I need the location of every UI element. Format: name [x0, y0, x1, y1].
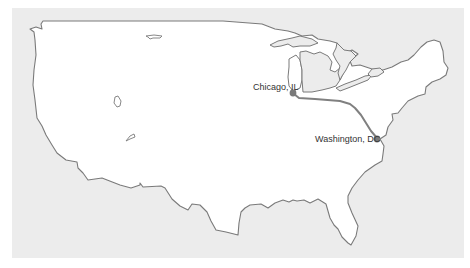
city-label-chicago: Chicago, IL	[253, 82, 299, 92]
us-map: Chicago, IL Washington, DC	[0, 0, 470, 268]
city-label-washington: Washington, DC	[315, 134, 381, 144]
us-landmass	[30, 21, 448, 245]
